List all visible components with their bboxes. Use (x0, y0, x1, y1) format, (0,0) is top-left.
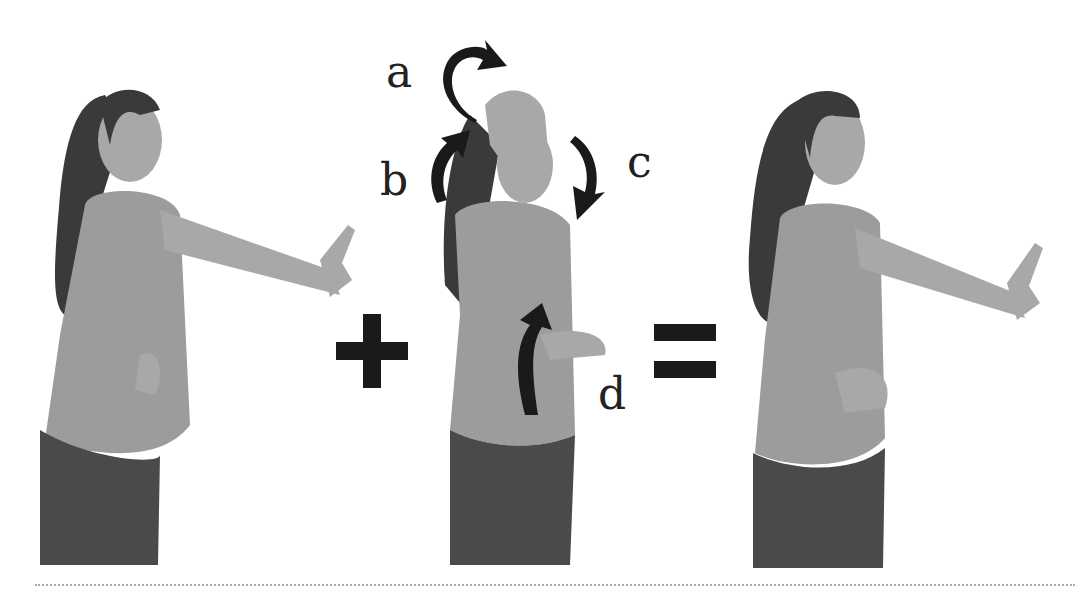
rotation-arrow-c (565, 134, 610, 222)
rotation-arrow-b (425, 128, 475, 206)
label-a: a (386, 50, 412, 94)
plus-vertical-bar (363, 314, 381, 388)
person-step-1 (30, 85, 370, 575)
label-d: d (598, 372, 626, 416)
equals-top-bar (654, 324, 716, 341)
label-c: c (627, 140, 652, 184)
label-b: b (380, 158, 408, 202)
person-result (735, 88, 1065, 578)
dotted-divider (35, 584, 1075, 586)
equals-bottom-bar (654, 361, 716, 378)
rotation-arrow-a (435, 38, 510, 128)
